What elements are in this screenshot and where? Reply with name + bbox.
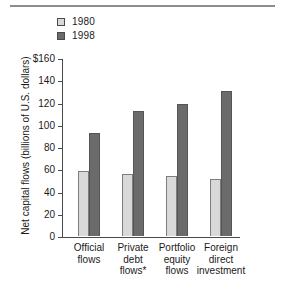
bar-1980-2	[166, 176, 177, 236]
y-tick-mark	[58, 215, 62, 216]
y-tick-label: 20	[21, 210, 55, 220]
x-axis-line	[62, 237, 240, 238]
category-label-line: Foreign	[184, 242, 258, 254]
bar-1980-3	[210, 179, 221, 236]
category-label: Foreigndirectinvestment	[184, 242, 258, 277]
y-tick-label: $160	[21, 54, 55, 64]
y-tick-label: 140	[21, 76, 55, 86]
plot-area: $160140120100806040200 OfficialflowsPriv…	[62, 59, 240, 237]
y-tick-mark	[58, 126, 62, 127]
y-tick-label: 60	[21, 165, 55, 175]
category-label-line: investment	[184, 265, 258, 277]
bar-1998-1	[133, 111, 144, 236]
legend-label-1998: 1998	[72, 31, 95, 41]
y-tick-label: 100	[21, 121, 55, 131]
legend-swatch-icon-1998	[57, 32, 65, 40]
legend-swatch-icon-1980	[57, 18, 65, 26]
y-tick-mark	[58, 104, 62, 105]
bar-1998-2	[177, 104, 188, 236]
bar-chart-figure: 1980 1998 Net capital flows (billions of…	[0, 0, 284, 294]
y-tick-mark	[58, 193, 62, 194]
legend-item-1998: 1998	[57, 30, 95, 42]
legend-label-1980: 1980	[72, 17, 95, 27]
bar-1998-0	[89, 133, 100, 236]
y-tick-label: 0	[21, 232, 55, 242]
category-label-line: direct	[184, 254, 258, 266]
bar-1980-1	[122, 174, 133, 236]
y-tick-label: 80	[21, 143, 55, 153]
y-tick-label: 120	[21, 99, 55, 109]
bar-1998-3	[221, 91, 232, 236]
chart-legend: 1980 1998	[57, 16, 95, 44]
y-tick-mark	[58, 237, 62, 238]
y-axis-line	[62, 59, 63, 238]
y-tick-mark	[58, 59, 62, 60]
y-tick-label: 40	[21, 188, 55, 198]
bar-1980-0	[78, 171, 89, 236]
header-divider	[10, 5, 275, 7]
legend-item-1980: 1980	[57, 16, 95, 28]
y-tick-mark	[58, 81, 62, 82]
y-tick-mark	[58, 148, 62, 149]
y-tick-mark	[58, 170, 62, 171]
